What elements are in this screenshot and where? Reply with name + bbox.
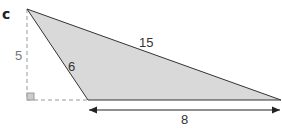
part-label: c: [2, 6, 10, 22]
base-label: 8: [181, 112, 188, 127]
long-side-label: 15: [139, 35, 153, 50]
short-side-label: 6: [68, 59, 75, 74]
height-label: 5: [15, 48, 22, 63]
triangle-diagram: c 5 6 15 8: [0, 0, 282, 131]
shaded-triangle: [27, 9, 281, 100]
right-angle-icon: [27, 93, 34, 100]
